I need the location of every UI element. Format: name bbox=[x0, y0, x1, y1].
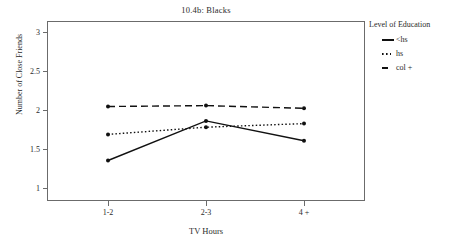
legend: Level of Education <hs hs col + bbox=[369, 20, 459, 77]
x-tick-mark-3 bbox=[304, 201, 305, 206]
x-axis-title: TV Hours bbox=[47, 226, 365, 236]
x-tick-mark-1 bbox=[108, 201, 109, 206]
y-tick-label-1: 1 bbox=[14, 184, 40, 193]
chart-figure: 10.4b: Blacks Number of Close Friends TV… bbox=[0, 0, 459, 245]
x-tick-mark-2 bbox=[206, 201, 207, 206]
y-tick-label-2: 2 bbox=[14, 106, 40, 115]
legend-sample-dashed-icon bbox=[382, 64, 394, 72]
data-point-1-0 bbox=[106, 132, 110, 136]
x-tick-label-3: 4 + bbox=[279, 208, 329, 217]
legend-label-col-plus: col + bbox=[396, 63, 412, 72]
legend-sample-solid-icon bbox=[382, 36, 394, 44]
data-point-2-1 bbox=[204, 104, 208, 108]
x-tick-label-1: 1-2 bbox=[83, 208, 133, 217]
legend-title: Level of Education bbox=[369, 20, 459, 29]
y-tick-label-2-5: 2.5 bbox=[14, 67, 40, 76]
legend-item-lt-hs[interactable]: <hs bbox=[369, 35, 459, 44]
legend-item-col-plus[interactable]: col + bbox=[369, 63, 459, 72]
y-tick-label-1-5: 1.5 bbox=[14, 145, 40, 154]
legend-item-hs[interactable]: hs bbox=[369, 49, 459, 58]
data-point-2-0 bbox=[106, 105, 110, 109]
data-point-1-1 bbox=[204, 125, 208, 129]
legend-sample-dotted-icon bbox=[382, 50, 394, 58]
legend-label-hs: hs bbox=[396, 49, 403, 58]
chart-title: 10.4b: Blacks bbox=[47, 5, 365, 15]
data-point-0-2 bbox=[302, 139, 306, 143]
data-point-2-2 bbox=[302, 106, 306, 110]
data-point-0-0 bbox=[106, 159, 110, 163]
legend-label-lt-hs: <hs bbox=[396, 35, 408, 44]
y-tick-label-3: 3 bbox=[14, 28, 40, 37]
plot-lines bbox=[47, 21, 365, 201]
data-point-1-2 bbox=[302, 122, 306, 126]
x-tick-label-2: 2-3 bbox=[181, 208, 231, 217]
data-point-0-1 bbox=[204, 119, 208, 123]
